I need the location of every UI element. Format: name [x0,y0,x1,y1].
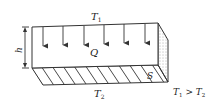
heat-label: Q [90,47,98,58]
area-label: S [147,71,153,81]
top-temperature-label: T1 [91,11,102,23]
slab-front-face [32,23,158,68]
temperature-condition-label: T1 > T2 [173,87,205,98]
slab-heat-diagram: h T1 Q S T2 T1 > T2 [0,0,217,109]
thickness-label: h [14,47,24,53]
bottom-temperature-label: T2 [94,88,105,100]
